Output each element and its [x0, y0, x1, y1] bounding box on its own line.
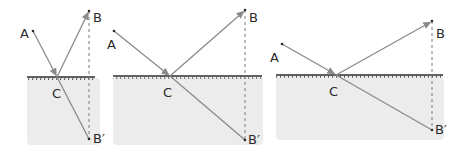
label-b-prime: B′	[248, 132, 260, 147]
surface-hatch	[113, 77, 262, 80]
reflected-ray	[336, 23, 429, 75]
label-b: B	[93, 10, 102, 25]
label-a: A	[107, 37, 116, 52]
point-b-prime	[431, 129, 434, 132]
label-b: B	[436, 26, 445, 41]
medium-shade	[276, 76, 444, 140]
label-b-prime: B′	[435, 122, 447, 137]
label-c: C	[329, 84, 338, 99]
point-b-prime	[88, 138, 91, 141]
reflection-diagram: A B C B′ A B C B′ A B C B′	[0, 0, 461, 152]
point-b	[244, 9, 247, 12]
reflected-ray	[57, 14, 88, 77]
panel-1: A B C B′	[20, 10, 105, 146]
point-a	[113, 30, 116, 33]
incident-ray	[33, 31, 56, 74]
label-b-prime: B′	[93, 131, 105, 146]
medium-shade	[113, 77, 263, 145]
panel-2: A B C B′	[107, 9, 263, 147]
surface-hatch	[27, 78, 95, 81]
label-a: A	[270, 50, 279, 65]
incident-ray	[114, 31, 168, 74]
point-b	[88, 10, 91, 13]
reflected-ray	[170, 13, 243, 77]
point-b	[431, 20, 434, 23]
point-a	[32, 30, 35, 33]
label-a: A	[20, 26, 29, 41]
label-b: B	[249, 10, 258, 25]
surface-hatch	[276, 76, 443, 79]
point-b-prime	[244, 139, 247, 142]
incident-ray	[282, 44, 333, 73]
label-c: C	[163, 85, 172, 100]
medium-shade	[27, 78, 100, 145]
point-a	[281, 43, 284, 46]
panel-3: A B C B′	[270, 20, 447, 140]
label-c: C	[52, 86, 61, 101]
